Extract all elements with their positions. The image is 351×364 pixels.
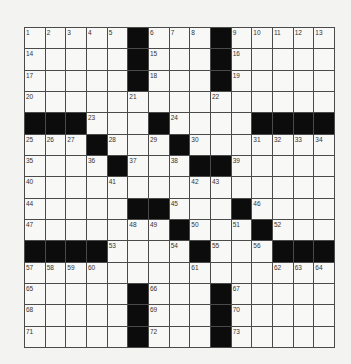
grid-cell[interactable] — [294, 199, 314, 219]
grid-cell[interactable] — [273, 156, 293, 176]
grid-cell[interactable] — [211, 135, 231, 155]
grid-cell[interactable]: 60 — [87, 263, 107, 283]
grid-cell[interactable] — [66, 156, 86, 176]
grid-cell[interactable]: 46 — [252, 199, 272, 219]
grid-cell[interactable]: 33 — [294, 135, 314, 155]
grid-cell[interactable] — [46, 305, 66, 325]
grid-cell[interactable] — [46, 92, 66, 112]
grid-cell[interactable] — [211, 113, 231, 133]
grid-cell[interactable]: 19 — [232, 71, 252, 91]
grid-cell[interactable] — [87, 49, 107, 69]
grid-cell[interactable]: 59 — [66, 263, 86, 283]
grid-cell[interactable]: 21 — [128, 92, 148, 112]
grid-cell[interactable] — [108, 113, 128, 133]
grid-cell[interactable] — [232, 135, 252, 155]
grid-cell[interactable] — [190, 71, 210, 91]
grid-cell[interactable] — [190, 199, 210, 219]
grid-cell[interactable] — [294, 284, 314, 304]
grid-cell[interactable]: 45 — [170, 199, 190, 219]
grid-cell[interactable]: 9 — [232, 28, 252, 48]
grid-cell[interactable] — [211, 263, 231, 283]
grid-cell[interactable] — [252, 284, 272, 304]
grid-cell[interactable] — [314, 177, 334, 197]
grid-cell[interactable]: 56 — [252, 241, 272, 261]
grid-cell[interactable] — [252, 305, 272, 325]
grid-cell[interactable]: 27 — [66, 135, 86, 155]
grid-cell[interactable] — [252, 177, 272, 197]
grid-cell[interactable] — [314, 49, 334, 69]
grid-cell[interactable] — [273, 305, 293, 325]
grid-cell[interactable] — [232, 177, 252, 197]
grid-cell[interactable] — [170, 49, 190, 69]
grid-cell[interactable]: 73 — [232, 327, 252, 347]
grid-cell[interactable] — [149, 177, 169, 197]
grid-cell[interactable] — [294, 49, 314, 69]
grid-cell[interactable] — [149, 92, 169, 112]
grid-cell[interactable]: 53 — [108, 241, 128, 261]
grid-cell[interactable] — [87, 220, 107, 240]
grid-cell[interactable] — [87, 199, 107, 219]
grid-cell[interactable]: 26 — [46, 135, 66, 155]
grid-cell[interactable] — [170, 263, 190, 283]
grid-cell[interactable] — [66, 327, 86, 347]
grid-cell[interactable] — [190, 305, 210, 325]
grid-cell[interactable]: 71 — [25, 327, 45, 347]
grid-cell[interactable] — [232, 113, 252, 133]
grid-cell[interactable]: 66 — [149, 284, 169, 304]
grid-cell[interactable] — [66, 177, 86, 197]
grid-cell[interactable]: 11 — [273, 28, 293, 48]
grid-cell[interactable] — [108, 71, 128, 91]
grid-cell[interactable]: 35 — [25, 156, 45, 176]
grid-cell[interactable]: 24 — [170, 113, 190, 133]
grid-cell[interactable]: 51 — [232, 220, 252, 240]
grid-cell[interactable]: 22 — [211, 92, 231, 112]
grid-cell[interactable]: 39 — [232, 156, 252, 176]
grid-cell[interactable] — [273, 92, 293, 112]
grid-cell[interactable]: 70 — [232, 305, 252, 325]
grid-cell[interactable]: 3 — [66, 28, 86, 48]
grid-cell[interactable] — [232, 263, 252, 283]
grid-cell[interactable] — [46, 156, 66, 176]
grid-cell[interactable]: 63 — [294, 263, 314, 283]
grid-cell[interactable]: 1 — [25, 28, 45, 48]
grid-cell[interactable] — [66, 49, 86, 69]
grid-cell[interactable] — [252, 92, 272, 112]
grid-cell[interactable]: 34 — [314, 135, 334, 155]
grid-cell[interactable] — [170, 284, 190, 304]
grid-cell[interactable] — [273, 327, 293, 347]
grid-cell[interactable] — [149, 241, 169, 261]
grid-cell[interactable] — [314, 284, 334, 304]
grid-cell[interactable]: 44 — [25, 199, 45, 219]
grid-cell[interactable]: 47 — [25, 220, 45, 240]
grid-cell[interactable]: 72 — [149, 327, 169, 347]
grid-cell[interactable] — [273, 71, 293, 91]
grid-cell[interactable] — [87, 177, 107, 197]
grid-cell[interactable]: 41 — [108, 177, 128, 197]
grid-cell[interactable] — [108, 49, 128, 69]
grid-cell[interactable] — [232, 92, 252, 112]
grid-cell[interactable]: 50 — [190, 220, 210, 240]
grid-cell[interactable]: 67 — [232, 284, 252, 304]
grid-cell[interactable] — [211, 199, 231, 219]
grid-cell[interactable] — [190, 49, 210, 69]
grid-cell[interactable] — [314, 220, 334, 240]
grid-cell[interactable] — [128, 113, 148, 133]
grid-cell[interactable] — [66, 71, 86, 91]
grid-cell[interactable]: 13 — [314, 28, 334, 48]
grid-cell[interactable] — [128, 135, 148, 155]
grid-cell[interactable] — [294, 327, 314, 347]
grid-cell[interactable] — [128, 241, 148, 261]
grid-cell[interactable] — [170, 177, 190, 197]
grid-cell[interactable] — [87, 284, 107, 304]
grid-cell[interactable] — [190, 327, 210, 347]
grid-cell[interactable] — [252, 263, 272, 283]
grid-cell[interactable] — [273, 199, 293, 219]
grid-cell[interactable]: 31 — [252, 135, 272, 155]
grid-cell[interactable] — [273, 177, 293, 197]
grid-cell[interactable] — [294, 220, 314, 240]
grid-cell[interactable]: 30 — [190, 135, 210, 155]
grid-cell[interactable] — [108, 199, 128, 219]
grid-cell[interactable]: 43 — [211, 177, 231, 197]
grid-cell[interactable]: 69 — [149, 305, 169, 325]
grid-cell[interactable] — [46, 49, 66, 69]
